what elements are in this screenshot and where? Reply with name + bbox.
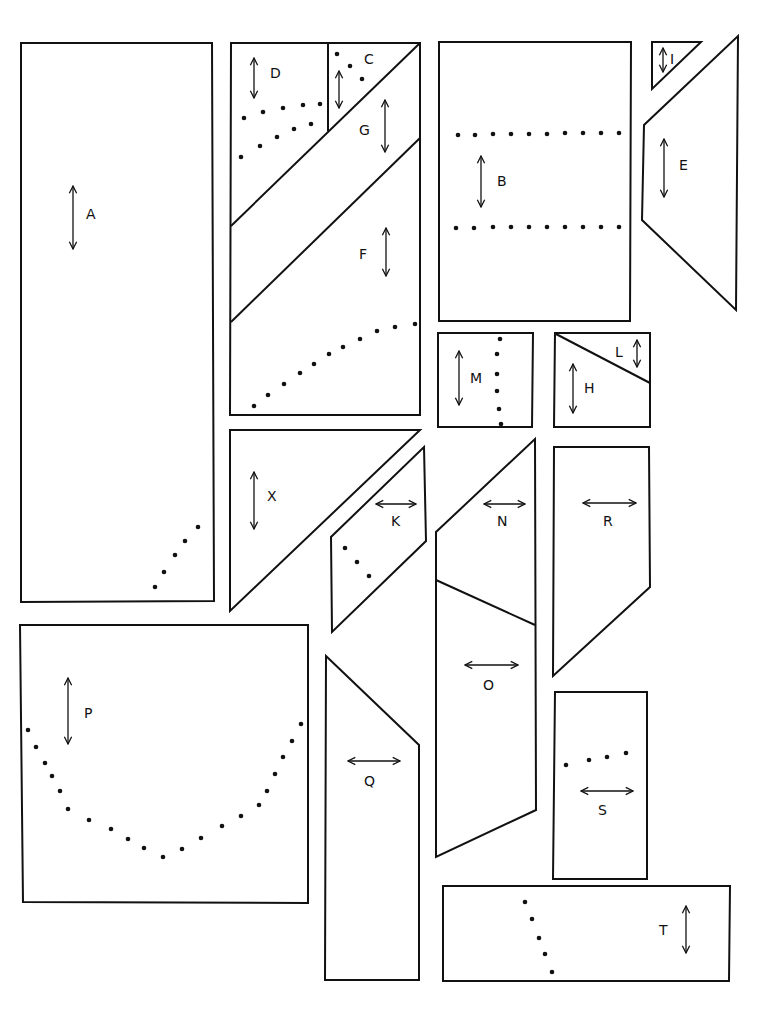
marking-dot — [617, 131, 622, 136]
marking-dot — [563, 131, 568, 136]
marking-dot — [50, 774, 55, 779]
piece-label-r: R — [603, 513, 613, 529]
marking-dot — [343, 546, 348, 551]
marking-dot — [126, 837, 131, 842]
marking-dot — [109, 827, 114, 832]
marking-dot — [495, 389, 500, 394]
marking-dot — [355, 560, 360, 565]
marking-dot — [66, 807, 71, 812]
marking-dot — [239, 155, 244, 160]
marking-dot — [367, 574, 372, 579]
piece-a-outline — [21, 43, 214, 602]
marking-dot — [183, 539, 188, 544]
marking-dot — [550, 970, 555, 975]
piece-label-a: A — [86, 206, 96, 222]
marking-dot — [299, 722, 304, 727]
pattern-layout-svg: A D C G F B I E — [0, 0, 762, 1012]
piece-group-dcgf: D C G F — [230, 43, 420, 415]
piece-label-m: M — [470, 370, 482, 386]
marking-dot — [290, 739, 295, 744]
piece-b: B — [439, 42, 631, 321]
piece-label-h: H — [584, 380, 595, 396]
marking-dot — [196, 525, 201, 530]
marking-dot — [58, 789, 63, 794]
piece-a: A — [21, 43, 214, 602]
piece-label-g: G — [359, 122, 370, 138]
piece-label-e: E — [679, 157, 688, 173]
marking-dot — [242, 116, 247, 121]
piece-label-q: Q — [364, 773, 375, 789]
marking-dot — [473, 133, 478, 138]
marking-dot — [454, 226, 459, 231]
marking-dot — [360, 77, 365, 82]
piece-label-b: B — [497, 173, 507, 189]
marking-dot — [142, 846, 147, 851]
marking-dot — [239, 814, 244, 819]
marking-dot — [527, 225, 532, 230]
piece-m: M — [438, 333, 533, 427]
marking-dot — [358, 337, 363, 342]
piece-group-lh: L H — [554, 333, 650, 427]
piece-label-t: T — [658, 922, 668, 938]
marking-dot — [281, 106, 286, 111]
block-no-outline — [436, 439, 536, 857]
piece-label-d: D — [270, 65, 281, 81]
block-outline — [230, 43, 420, 415]
marking-dot — [173, 553, 178, 558]
marking-dot — [312, 362, 317, 367]
marking-dot — [530, 917, 535, 922]
marking-dot — [375, 329, 380, 334]
piece-t-outline — [443, 886, 730, 981]
marking-dot — [34, 745, 39, 750]
piece-p-outline — [20, 625, 308, 903]
marking-dot — [537, 936, 542, 941]
piece-p: P — [20, 625, 308, 903]
marking-dot — [543, 952, 548, 957]
marking-dot — [348, 64, 353, 69]
marking-dot — [545, 132, 550, 137]
marking-dot — [495, 372, 500, 377]
piece-label-c: C — [364, 51, 374, 67]
marking-dot — [563, 225, 568, 230]
marking-dot — [301, 103, 306, 108]
marking-dot — [220, 824, 225, 829]
piece-t: T — [443, 886, 730, 981]
piece-label-s: S — [598, 802, 607, 818]
marking-dot — [413, 322, 418, 327]
marking-dot — [273, 772, 278, 777]
marking-dot — [495, 352, 500, 357]
marking-dot — [509, 132, 514, 137]
marking-dot — [605, 755, 610, 760]
marking-dot — [266, 393, 271, 398]
piece-s: S — [553, 692, 647, 879]
marking-dot — [318, 102, 323, 107]
piece-label-p: P — [84, 705, 92, 721]
marking-dot — [497, 407, 502, 412]
piece-m-outline — [438, 333, 533, 427]
marking-dot — [43, 761, 48, 766]
marking-dot — [498, 337, 503, 342]
marking-dot — [581, 131, 586, 136]
piece-label-x: X — [267, 488, 277, 504]
marking-dot — [292, 127, 297, 132]
piece-label-i: I — [670, 51, 674, 67]
marking-dot — [275, 135, 280, 140]
piece-label-n: N — [497, 513, 507, 529]
pattern-layout-diagram: A D C G F B I E — [0, 0, 762, 1012]
marking-dot — [587, 758, 592, 763]
marking-dot — [564, 763, 569, 768]
marking-dot — [87, 818, 92, 823]
marking-dot — [257, 803, 262, 808]
piece-s-outline — [553, 692, 647, 879]
piece-label-l: L — [615, 344, 623, 360]
marking-dot — [527, 132, 532, 137]
marking-dot — [617, 225, 622, 230]
piece-group-no: N O — [436, 439, 536, 857]
marking-dot — [282, 382, 287, 387]
marking-dot — [509, 225, 514, 230]
piece-label-o: O — [483, 677, 494, 693]
marking-dot — [491, 225, 496, 230]
marking-dot — [472, 226, 477, 231]
marking-dot — [456, 133, 461, 138]
piece-label-f: F — [359, 246, 367, 262]
